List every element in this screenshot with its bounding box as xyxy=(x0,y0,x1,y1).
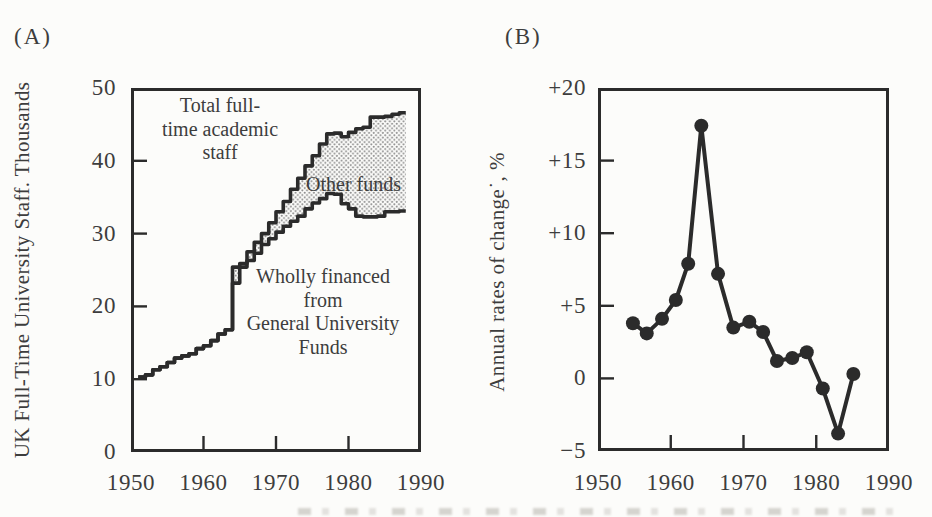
rates-y-tick-label: +20 xyxy=(548,75,586,101)
staff-x-tick-label: 1980 xyxy=(324,470,372,496)
plot-border xyxy=(600,90,888,450)
staff-y-tick-label: 10 xyxy=(92,366,116,392)
figure-root: (A) UK Full-Time University Staff. Thous… xyxy=(0,0,932,517)
rates-y-tick-label: +15 xyxy=(548,148,586,174)
staff-x-tick-label: 1960 xyxy=(179,470,227,496)
staff-x-tick-label: 1970 xyxy=(252,470,300,496)
rates-x-tick-label: 1980 xyxy=(792,470,840,496)
data-point xyxy=(626,316,640,330)
rates-chart-ylabel: Annual rates of change˙, % xyxy=(485,152,510,392)
data-point xyxy=(726,321,740,335)
panel-b-tag: (B) xyxy=(505,24,542,50)
annotation-guf: Wholly financed from General University … xyxy=(247,265,400,359)
staff-y-tick-label: 40 xyxy=(92,148,116,174)
rates-x-tick-label: 1970 xyxy=(719,470,767,496)
data-point xyxy=(785,351,799,365)
data-point xyxy=(711,267,725,281)
data-point xyxy=(694,119,708,133)
rates-y-tick-label: +10 xyxy=(548,220,586,246)
data-point xyxy=(669,293,683,307)
data-point xyxy=(756,325,770,339)
data-point xyxy=(742,315,756,329)
rates-y-tick-label: −5 xyxy=(560,438,586,464)
rates-y-tick-label: +5 xyxy=(560,293,586,319)
staff-chart-ylabel: UK Full-Time University Staff. Thousands xyxy=(10,82,35,459)
data-point xyxy=(831,427,845,441)
staff-x-tick-label: 1950 xyxy=(107,470,155,496)
rates-chart-plot xyxy=(598,88,889,451)
rates-x-tick-label: 1990 xyxy=(865,470,913,496)
rates-x-tick-label: 1950 xyxy=(574,470,622,496)
staff-y-tick-label: 30 xyxy=(92,221,116,247)
rates-x-tick-label: 1960 xyxy=(647,470,695,496)
data-point xyxy=(770,354,784,368)
data-point xyxy=(846,367,860,381)
staff-y-tick-label: 20 xyxy=(92,293,116,319)
staff-y-tick-label: 50 xyxy=(92,75,116,101)
data-point xyxy=(655,312,669,326)
data-point xyxy=(640,326,654,340)
annotation-total-staff: Total full- time academic staff xyxy=(162,94,278,165)
data-point xyxy=(800,345,814,359)
staff-x-tick-label: 1990 xyxy=(397,470,445,496)
panel-a-tag: (A) xyxy=(14,24,52,50)
caption-remnant xyxy=(298,508,908,515)
data-point xyxy=(816,382,830,396)
data-point xyxy=(681,257,695,271)
rates-y-tick-label: 0 xyxy=(574,365,586,391)
annotation-other-funds: Other funds xyxy=(306,173,401,197)
staff-y-tick-label: 0 xyxy=(104,439,116,465)
